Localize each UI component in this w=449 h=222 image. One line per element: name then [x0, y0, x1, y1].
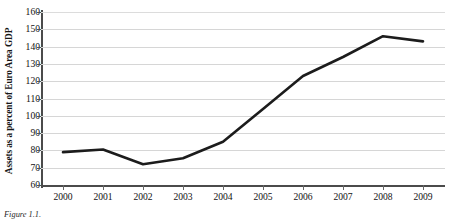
- x-axis-tick-mark: [303, 185, 304, 190]
- x-axis-tick-labels: 2000200120022003200420052006200720082009: [0, 191, 449, 205]
- x-axis-tick-label: 2004: [203, 191, 243, 203]
- x-axis-tick-mark: [343, 185, 344, 190]
- caption-label: Figure 1.1.: [4, 210, 41, 219]
- x-axis-tick-mark: [63, 185, 64, 190]
- x-axis-tick-label: 2002: [123, 191, 163, 203]
- x-axis-tick-label: 2009: [403, 191, 443, 203]
- x-axis-tick-label: 2005: [243, 191, 283, 203]
- figure-container: Assets as a percent of Euro Area GDP 607…: [0, 0, 449, 222]
- x-axis-tick-mark: [143, 185, 144, 190]
- x-axis-tick-mark: [223, 185, 224, 190]
- x-axis-tick-mark: [423, 185, 424, 190]
- x-axis-tick-label: 2003: [163, 191, 203, 203]
- x-axis-tick-label: 2007: [323, 191, 363, 203]
- x-axis-tick-label: 2006: [283, 191, 323, 203]
- line-series: [41, 12, 445, 185]
- x-axis-tick-label: 2008: [363, 191, 403, 203]
- figure-caption: Figure 1.1.: [4, 210, 445, 220]
- plot-area: [41, 12, 445, 185]
- series-polyline: [63, 36, 423, 164]
- x-axis-tick-mark: [263, 185, 264, 190]
- x-axis-tick-mark: [103, 185, 104, 190]
- x-axis-tick-mark: [183, 185, 184, 190]
- x-axis-tick-label: 2000: [43, 191, 83, 203]
- x-axis-tick-label: 2001: [83, 191, 123, 203]
- x-axis-tick-mark: [383, 185, 384, 190]
